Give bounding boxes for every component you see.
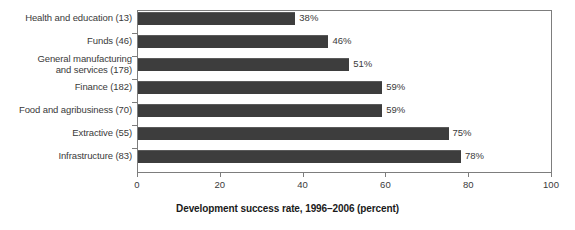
x-axis-tick-label: 100	[543, 179, 559, 190]
bar	[138, 150, 461, 163]
bar	[138, 81, 382, 94]
category-label: Finance (182)	[0, 81, 132, 92]
x-axis-tick-label: 40	[297, 179, 308, 190]
y-axis-tick	[132, 33, 137, 34]
bars-layer: 38%46%51%59%59%75%78%	[138, 11, 552, 172]
bar-value-label: 78%	[461, 149, 484, 163]
y-axis-tick	[132, 148, 137, 149]
category-label: General manufacturing and services (178)	[0, 53, 132, 75]
x-axis: 020406080100	[137, 173, 552, 197]
category-axis: Health and education (13)Funds (46)Gener…	[0, 10, 132, 173]
x-axis-tick	[220, 173, 221, 177]
bar-value-label: 51%	[349, 57, 372, 71]
y-axis-tick	[132, 102, 137, 103]
category-label: Infrastructure (83)	[0, 150, 132, 161]
x-axis-tick	[385, 173, 386, 177]
x-axis-tick	[551, 173, 552, 177]
y-axis-tick	[132, 125, 137, 126]
y-axis-tick	[132, 79, 137, 80]
category-label: Food and agribusiness (70)	[0, 104, 132, 115]
bar-value-label: 59%	[382, 103, 405, 117]
bar-value-label: 59%	[382, 80, 405, 94]
bar-row: 59%	[138, 104, 552, 117]
horizontal-bar-chart: Health and education (13)Funds (46)Gener…	[0, 0, 575, 230]
x-axis-tick	[468, 173, 469, 177]
y-axis-tick	[132, 56, 137, 57]
bar-row: 46%	[138, 35, 552, 48]
x-axis-title: Development success rate, 1996–2006 (per…	[0, 203, 575, 214]
bar	[138, 12, 295, 25]
bar-row: 75%	[138, 127, 552, 140]
bar	[138, 58, 349, 71]
category-label: Extractive (55)	[0, 127, 132, 138]
bar	[138, 35, 328, 48]
x-axis-tick-label: 80	[463, 179, 474, 190]
bar-value-label: 38%	[295, 11, 318, 25]
x-axis-tick-label: 20	[215, 179, 226, 190]
x-axis-tick	[137, 173, 138, 177]
bar	[138, 127, 449, 140]
bar-row: 78%	[138, 150, 552, 163]
bar	[138, 104, 382, 117]
category-label: Health and education (13)	[0, 12, 132, 23]
bar-row: 59%	[138, 81, 552, 94]
bar-row: 51%	[138, 58, 552, 71]
bar-row: 38%	[138, 12, 552, 25]
x-axis-tick-label: 60	[380, 179, 391, 190]
bar-value-label: 46%	[328, 34, 351, 48]
x-axis-tick-label: 0	[134, 179, 139, 190]
category-label: Funds (46)	[0, 35, 132, 46]
bar-value-label: 75%	[449, 126, 472, 140]
x-axis-tick	[303, 173, 304, 177]
